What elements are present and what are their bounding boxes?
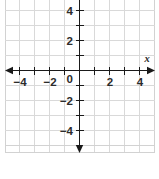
x-tick-label-pos2: 2 [107,76,113,88]
x-axis-label: x [143,53,149,64]
y-tick-label-pos4: 4 [67,5,74,17]
y-tick-label-neg2: −2 [60,95,73,107]
y-tick-label-neg4: −4 [60,125,74,137]
x-tick-label-pos4: 4 [137,76,144,88]
x-tick-label-neg2: −2 [43,76,56,88]
y-tick-label-pos2: 2 [67,35,73,47]
coordinate-plane-figure: −4 −2 2 4 4 2 −2 −4 0 x [0,0,159,179]
x-tick-label-neg4: −4 [13,76,27,88]
coordinate-plane-svg: −4 −2 2 4 4 2 −2 −4 0 x [0,0,159,179]
origin-label: 0 [67,73,73,85]
